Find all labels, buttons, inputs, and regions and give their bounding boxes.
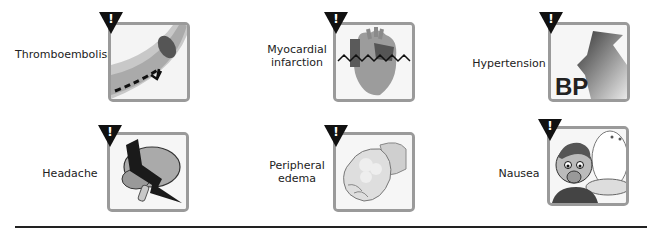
warning-icon: ! xyxy=(98,125,122,147)
hypertension-tile: BP xyxy=(548,22,630,102)
thromboembolism-icon xyxy=(111,25,187,99)
warning-icon: ! xyxy=(539,12,563,34)
warning-icon: ! xyxy=(324,125,348,147)
warning-icon: ! xyxy=(99,12,123,34)
myocardial-infarction-tile xyxy=(333,22,415,102)
label-thromboembolism: Thromboembolism xyxy=(15,48,107,61)
label-headache: Headache xyxy=(38,167,102,180)
label-peripheral-edema: Peripheral edema xyxy=(262,159,332,185)
bp-arrow-icon: BP xyxy=(551,25,627,99)
label-myocardial-infarction: Myocardial infarction xyxy=(262,43,332,69)
label-nausea: Nausea xyxy=(495,167,543,180)
svg-text:BP: BP xyxy=(555,73,588,99)
label-line: infarction xyxy=(262,56,332,69)
bottom-rule xyxy=(15,226,647,228)
heart-icon xyxy=(336,25,412,99)
warning-icon: ! xyxy=(538,119,562,141)
warning-icon: ! xyxy=(324,12,348,34)
label-hypertension: Hypertension xyxy=(470,57,548,70)
label-line: Myocardial xyxy=(262,43,332,56)
thromboembolism-tile xyxy=(108,22,190,102)
label-line: Peripheral xyxy=(262,159,332,172)
label-line: edema xyxy=(262,172,332,185)
